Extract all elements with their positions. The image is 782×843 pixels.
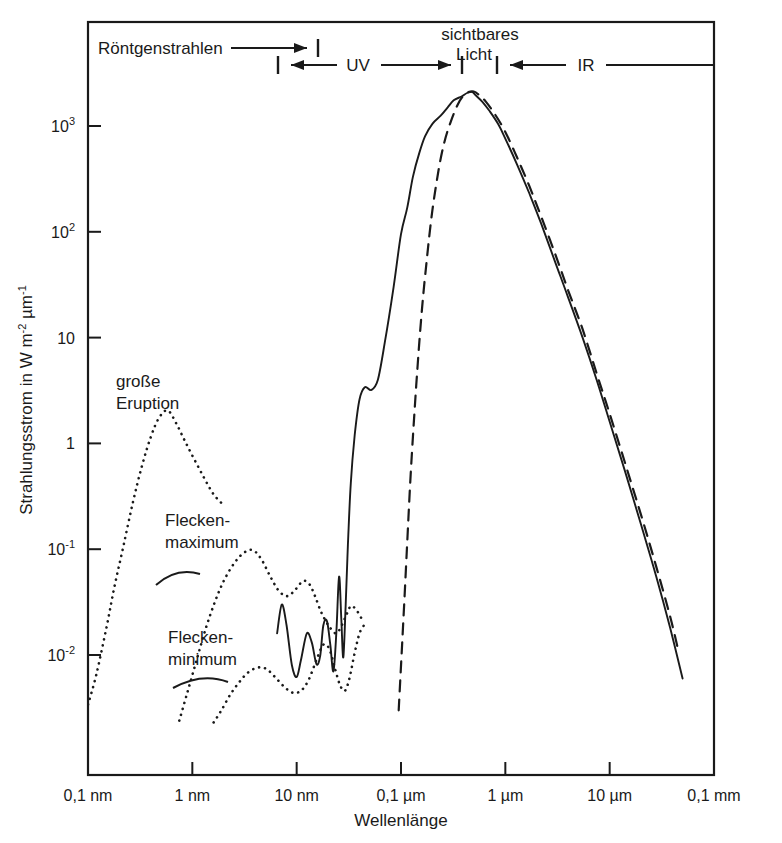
band-label: UV — [346, 56, 370, 75]
x-tick-label: 0,1 mm — [687, 787, 740, 804]
y-tick-label: 10 — [57, 330, 75, 347]
x-tick-label: 0,1 µm — [376, 787, 425, 804]
y-tick-label: 10-1 — [47, 538, 75, 558]
curve-strahlung-des-schwarzen-k-rpers-ca-5800-k — [399, 91, 679, 710]
chart-canvas: RöntgenstrahlenUVsichtbaresLichtIR 10310… — [0, 0, 782, 843]
annotation-label: große — [116, 372, 160, 391]
y-tick-label: 1 — [66, 435, 75, 452]
spectral-band-legend: RöntgenstrahlenUVsichtbaresLichtIR — [98, 25, 714, 75]
annotation-leader — [173, 678, 228, 688]
annotation-leader — [156, 572, 200, 585]
y-axis-title-mid: µm — [17, 295, 36, 324]
x-axis-title: Wellenlänge — [354, 811, 447, 830]
curve-gesamtspektrum-photosph-re-korona — [277, 92, 682, 679]
y-axis-title-exp1: -2 — [16, 324, 28, 334]
x-tick-label: 10 µm — [587, 787, 632, 804]
annotation-label: minimum — [168, 650, 237, 669]
solar-spectrum-figure: RöntgenstrahlenUVsichtbaresLichtIR 10310… — [0, 0, 782, 843]
band-label: Licht — [456, 45, 492, 64]
y-axis-title: Strahlungsstrom in W m-2 µm-1 — [16, 285, 36, 515]
band-arrow-head — [294, 43, 307, 53]
curve-annotations: großeEruptionFlecken-maximumFlecken-mini… — [116, 372, 239, 688]
y-axis-title-exp2: -1 — [16, 285, 28, 295]
y-tick-label: 102 — [51, 221, 75, 241]
band-label: Röntgenstrahlen — [98, 39, 223, 58]
x-tick-label: 1 µm — [487, 787, 523, 804]
y-axis-ticks: 10310210110-110-2 — [47, 115, 101, 664]
y-axis-title-main: Strahlungsstrom in W m — [17, 333, 36, 514]
annotation-label: Eruption — [116, 394, 179, 413]
annotation-label: maximum — [165, 533, 239, 552]
x-tick-label: 10 nm — [274, 787, 318, 804]
band-arrow-head — [438, 60, 451, 70]
band-label: sichtbares — [441, 25, 518, 44]
svg-text:Strahlungsstrom in W m-2 µm-1: Strahlungsstrom in W m-2 µm-1 — [16, 285, 36, 515]
y-tick-label: 10-2 — [47, 644, 75, 664]
y-tick-label: 103 — [51, 115, 75, 135]
band-label: IR — [578, 56, 595, 75]
annotation-label: Flecken- — [168, 628, 233, 647]
x-axis-ticks: 0,1 nm1 nm10 nm0,1 µm1 µm10 µm0,1 mm — [64, 762, 741, 804]
x-tick-label: 1 nm — [175, 787, 211, 804]
annotation-label: Flecken- — [165, 511, 230, 530]
x-tick-label: 0,1 nm — [64, 787, 113, 804]
